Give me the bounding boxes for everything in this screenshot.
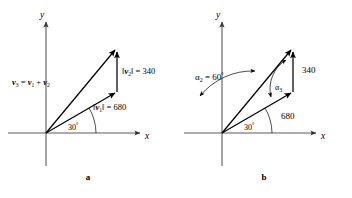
angle-arc-30: [265, 108, 272, 133]
v1-magnitude-label: 680: [281, 111, 295, 121]
panel-b-caption: b: [176, 172, 352, 183]
panel-a-caption: a: [0, 172, 176, 183]
panel-b-diagram: y x α2 = 60° α3 340 680 30°: [176, 0, 352, 198]
y-axis-label: y: [39, 10, 45, 20]
vector-v3-resultant: [46, 50, 115, 133]
base-angle-label: 30°: [68, 122, 79, 132]
vector-v1: [46, 93, 115, 133]
alpha3-label: α3: [275, 83, 282, 93]
v2-magnitude-label: ‖v2‖ = 340: [122, 66, 155, 77]
panel-a: y x v3 = v1 + v2 ‖v2‖ = 340 ‖v1‖ = 680 3…: [0, 0, 176, 198]
vector-addition-figure: y x v3 = v1 + v2 ‖v2‖ = 340 ‖v1‖ = 680 3…: [0, 0, 352, 198]
y-axis-label: y: [215, 10, 221, 20]
resultant-label: v3 = v1 + v2: [12, 77, 50, 88]
v2-magnitude-label: 340: [302, 65, 316, 75]
panel-b: y x α2 = 60° α3 340 680 30°: [176, 0, 352, 198]
x-axis-label: x: [320, 131, 326, 141]
base-angle-label: 30°: [244, 122, 255, 132]
panel-a-diagram: y x v3 = v1 + v2 ‖v2‖ = 340 ‖v1‖ = 680 3…: [0, 0, 176, 198]
v1-magnitude-label: ‖v1‖ = 680: [93, 102, 126, 113]
x-axis-label: x: [144, 131, 150, 141]
alpha2-label: α2 = 60°: [195, 72, 224, 83]
